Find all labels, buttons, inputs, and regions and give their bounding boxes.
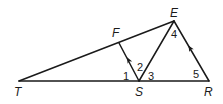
vertex-label-S: S <box>135 85 143 99</box>
vertex-label-R: R <box>204 85 213 99</box>
vertex-label-E: E <box>170 6 179 20</box>
angle-label-4: 4 <box>171 28 177 40</box>
segment-ER <box>174 21 209 81</box>
segment-ES <box>139 21 174 81</box>
vertex-label-F: F <box>112 26 120 40</box>
angle-label-5: 5 <box>193 68 199 80</box>
angle-label-2: 2 <box>137 61 143 73</box>
vertex-label-T: T <box>14 85 23 99</box>
triangle-diagram: T S R E F 1 2 3 4 5 <box>0 0 223 104</box>
angle-label-1: 1 <box>123 70 129 82</box>
diagram-svg: T S R E F 1 2 3 4 5 <box>0 0 223 104</box>
angle-label-3: 3 <box>148 70 154 82</box>
